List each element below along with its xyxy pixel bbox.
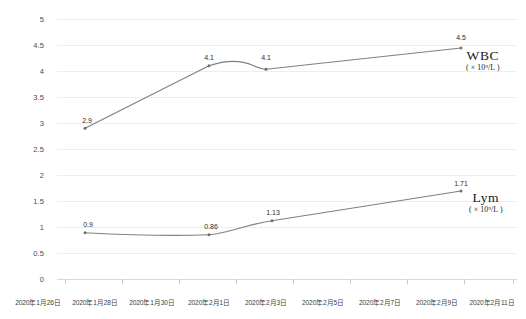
wbc-point-label-0: 2.9 xyxy=(82,117,92,124)
chart-page: 5 4.5 4 3.5 3 2.5 2 1.5 1 0.5 0 2020年1月2… xyxy=(0,0,526,319)
lym-point-label-1: 0.86 xyxy=(204,223,218,230)
wbc-point-label-3: 4.5 xyxy=(456,34,466,41)
x-axis-ticks xyxy=(66,280,514,285)
wbc-point-label-2: 4.1 xyxy=(261,54,271,61)
y-axis-tick-5: 5 xyxy=(14,15,44,24)
x-axis-tick-1: 2020年1月28日 xyxy=(72,297,118,307)
y-axis-tick-4: 4 xyxy=(14,67,44,76)
x-axis-tick-2: 2020年1月30日 xyxy=(129,297,175,307)
wbc-series-line xyxy=(85,48,461,128)
x-axis-tick-0: 2020年1月26日 xyxy=(15,297,61,307)
lym-point-label-3: 1.71 xyxy=(454,180,468,187)
x-axis-tick-5: 2020年2月5日 xyxy=(302,297,344,307)
y-axis-tick-2-5: 2.5 xyxy=(14,145,44,154)
y-axis-tick-0: 0 xyxy=(14,275,44,284)
x-axis-tick-3: 2020年2月1日 xyxy=(188,297,230,307)
wbc-data-markers xyxy=(84,47,463,130)
wbc-series-name: WBC xyxy=(466,48,500,64)
y-axis-tick-2: 2 xyxy=(14,171,44,180)
x-axis-tick-8: 2020年2月11日 xyxy=(469,297,514,307)
lym-series-name: Lym xyxy=(469,190,503,206)
x-axis-tick-7: 2020年2月9日 xyxy=(416,297,458,307)
lym-point-label-0: 0.9 xyxy=(83,221,93,228)
lym-series-label: Lym ( × 10⁹/L ) xyxy=(469,190,503,214)
lym-point-label-2: 1.13 xyxy=(266,209,280,216)
line-chart-plot xyxy=(0,0,526,319)
y-axis-tick-3: 3 xyxy=(14,119,44,128)
lym-series-unit: ( × 10⁹/L ) xyxy=(469,205,503,214)
y-axis-tick-1-5: 1.5 xyxy=(14,197,44,206)
x-axis-tick-4: 2020年2月3日 xyxy=(245,297,287,307)
wbc-series-label: WBC ( × 10⁹/L ) xyxy=(466,48,500,72)
x-axis-tick-6: 2020年2月7日 xyxy=(359,297,401,307)
y-axis-tick-4-5: 4.5 xyxy=(14,41,44,50)
wbc-series-unit: ( × 10⁹/L ) xyxy=(466,63,500,72)
wbc-point-label-1: 4.1 xyxy=(204,54,214,61)
y-axis-tick-1: 1 xyxy=(14,223,44,232)
y-axis-tick-3-5: 3.5 xyxy=(14,93,44,102)
y-axis-tick-0-5: 0.5 xyxy=(14,249,44,258)
